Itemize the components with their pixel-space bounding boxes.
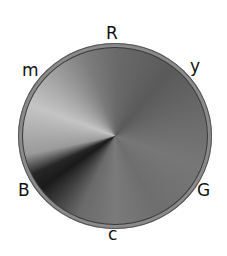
label-cyan: c [108, 226, 117, 243]
label-blue: B [18, 182, 30, 199]
color-wheel [18, 43, 212, 229]
label-magenta: m [22, 62, 39, 79]
label-yellow: y [190, 58, 200, 75]
label-red: R [106, 25, 118, 42]
label-green: G [197, 182, 210, 199]
color-wheel-disc [22, 47, 208, 225]
